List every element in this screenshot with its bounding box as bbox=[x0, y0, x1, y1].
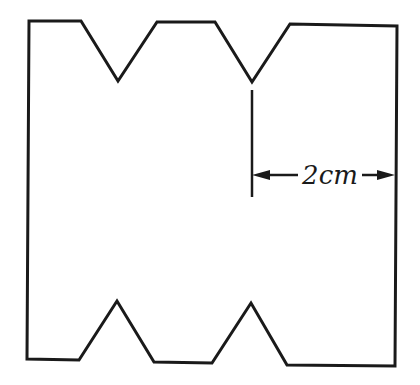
notched-shape-diagram: 2cm bbox=[0, 0, 420, 385]
shape-outline bbox=[27, 21, 397, 366]
dimension-label: 2cm bbox=[301, 160, 358, 190]
arrowhead-left-icon bbox=[252, 170, 270, 180]
arrowhead-right-icon bbox=[377, 170, 395, 180]
